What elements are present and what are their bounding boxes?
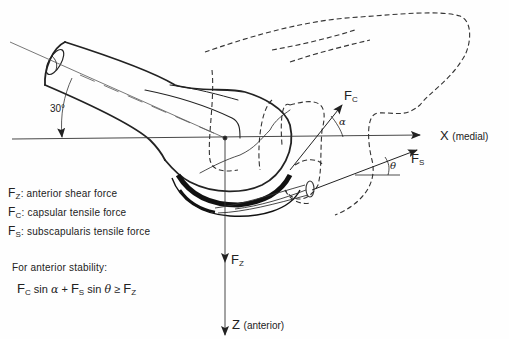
angle-30-label: 30° bbox=[50, 103, 65, 114]
stability-heading: For anterior stability: bbox=[12, 262, 107, 273]
legend-fc: FC: capsular tensile force bbox=[8, 205, 126, 220]
alpha-label: α bbox=[339, 116, 346, 127]
fs-label: FS bbox=[411, 151, 424, 167]
x-axis-label: X (medial) bbox=[440, 128, 488, 143]
subscapularis bbox=[215, 181, 314, 213]
stability-formula: FC sin α + FS sin θ ≥ FZ bbox=[17, 281, 136, 297]
legend-fz: FZ: anterior shear force bbox=[8, 186, 117, 201]
humerus bbox=[43, 42, 292, 191]
z-axis-name: Z bbox=[232, 317, 240, 332]
force-vectors bbox=[290, 105, 417, 190]
x-axis-name: X bbox=[440, 128, 449, 143]
theta-label: θ bbox=[390, 160, 396, 171]
scapula-outline bbox=[205, 13, 470, 215]
capsule bbox=[172, 175, 300, 216]
x-axis-qualifier: (medial) bbox=[452, 131, 488, 142]
force-diagram: 30° X (medial) Z (anterior) FC FS FZ α θ… bbox=[0, 0, 509, 339]
fc-label: FC bbox=[344, 88, 358, 104]
fz-label: FZ bbox=[231, 252, 244, 268]
z-axis-label: Z (anterior) bbox=[232, 317, 284, 332]
z-axis-qualifier: (anterior) bbox=[244, 320, 285, 331]
legend-fs: FS: subscapularis tensile force bbox=[8, 224, 150, 239]
